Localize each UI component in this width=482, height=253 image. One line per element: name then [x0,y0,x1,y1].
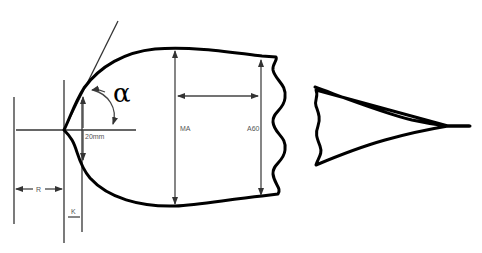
twenty-mm-label: 20mm [85,133,105,140]
ma-label: MA [180,125,191,132]
alpha-angle-arc [93,90,114,124]
a60-label: A60 [247,125,260,132]
k-label: K [71,208,76,215]
alpha-label: α [113,78,131,108]
r-label: R [36,186,41,193]
diagram-canvas: α 20mm MA A60 R K [0,0,482,253]
